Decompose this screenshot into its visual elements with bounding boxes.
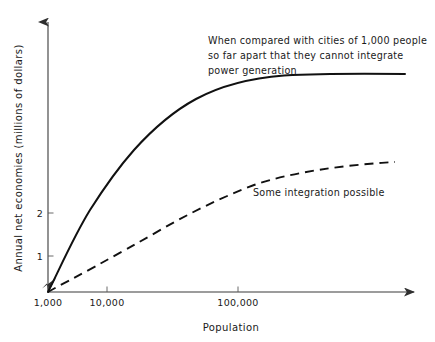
y-tick-label-1: 1 <box>37 251 43 262</box>
series-some-integration-curve <box>48 162 395 292</box>
axis-lines <box>42 22 414 292</box>
x-tick-label-10000: 10,000 <box>89 297 124 308</box>
chart-figure: 1,000 10,000 100,000 1 2 Population Annu… <box>0 0 435 342</box>
x-axis-title: Population <box>203 322 260 333</box>
y-tick-label-2: 2 <box>37 208 43 219</box>
x-axis-tick-labels: 1,000 10,000 100,000 <box>34 297 259 308</box>
data-series <box>48 74 405 292</box>
y-axis-tick-labels: 1 2 <box>37 208 43 262</box>
chart-canvas: 1,000 10,000 100,000 1 2 Population Annu… <box>0 0 435 342</box>
annotation-lower-curve: Some integration possible <box>253 187 385 198</box>
annotation-upper-curve: When compared with cities of 1,000 peopl… <box>208 35 427 76</box>
y-axis-ticks <box>48 213 54 256</box>
x-tick-label-100000: 100,000 <box>217 297 258 308</box>
x-axis-ticks <box>48 287 238 293</box>
annotation-upper-line-1: When compared with cities of 1,000 peopl… <box>208 35 427 46</box>
y-axis-title: Annual net economies (millions of dollar… <box>13 44 24 271</box>
series-no-integration-curve <box>48 74 405 292</box>
annotation-lower-line-1: Some integration possible <box>253 187 385 198</box>
annotation-upper-line-2: so far apart that they cannot integrate <box>208 50 404 61</box>
annotation-upper-line-3: power generation <box>208 65 297 76</box>
x-tick-label-1000: 1,000 <box>34 297 63 308</box>
